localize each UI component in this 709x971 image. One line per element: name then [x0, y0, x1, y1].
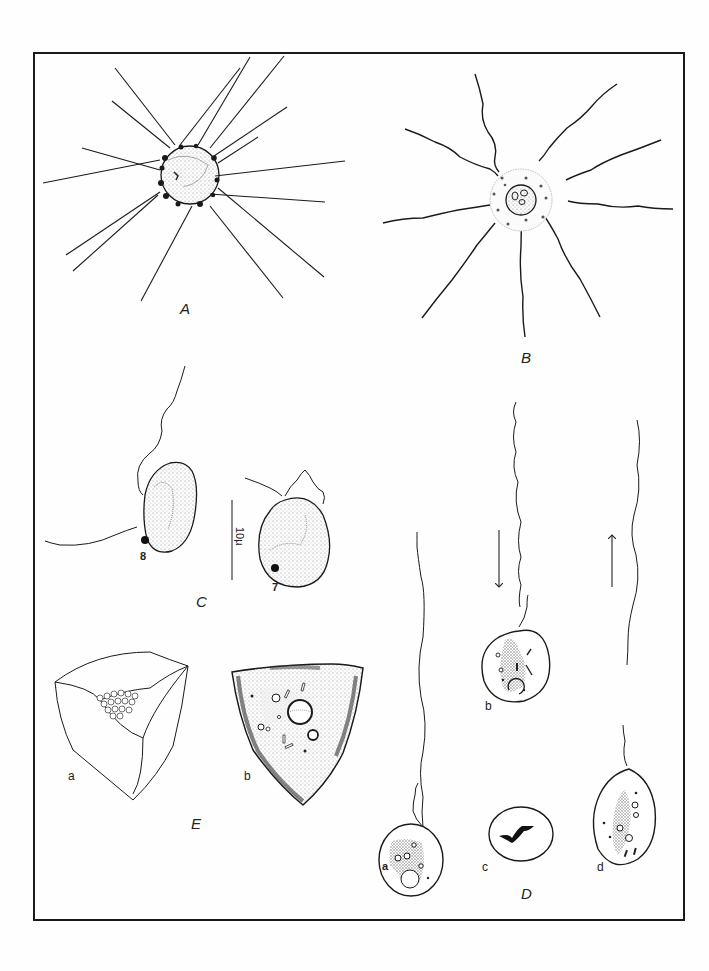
figure-plate-page: A B C E D 8 7 10µ a b a b c d: [0, 0, 709, 971]
scale-bar-label: 10µ: [234, 527, 246, 546]
panel-c-cell-8: [45, 366, 197, 552]
panel-c-cell-7: [245, 470, 330, 587]
panel-d-sublabel-d: d: [597, 861, 604, 873]
panel-b-cell-body: [490, 169, 552, 231]
panel-d-cell-d: [593, 420, 655, 865]
panel-label-c: C: [196, 594, 207, 609]
panel-d-sublabel-a: a: [382, 861, 388, 872]
panel-d-cell-a: [379, 532, 443, 896]
panel-label-d: D: [521, 886, 532, 901]
panel-d-cell-b: [482, 402, 550, 702]
cell-number-8: 8: [140, 551, 146, 562]
panel-label-a: A: [180, 301, 190, 316]
panel-label-e: E: [191, 816, 201, 831]
panel-d-cell-c: [489, 807, 553, 861]
illustration-canvas: [0, 0, 709, 971]
panel-label-b: B: [521, 350, 531, 365]
panel-a-cell-body: [158, 144, 220, 207]
panel-e-sublabel-b: b: [244, 770, 251, 782]
panel-e-cyst-b: [232, 664, 363, 805]
panel-d-sublabel-b: b: [485, 700, 492, 712]
cell-number-7: 7: [272, 582, 278, 593]
panel-d-sublabel-c: c: [482, 861, 488, 873]
panel-d-direction-arrows: [499, 530, 612, 587]
panel-e-sublabel-a: a: [68, 770, 75, 782]
